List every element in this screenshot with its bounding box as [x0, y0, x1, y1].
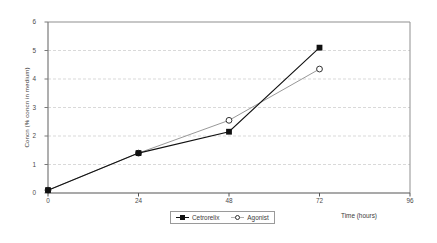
plot-area	[0, 0, 437, 243]
legend-item-cetrorelix[interactable]: Cetrorelix	[176, 214, 219, 222]
legend-item-agonist[interactable]: Agonist	[231, 214, 268, 222]
data-point-cetrorelix-72h	[317, 45, 323, 51]
data-point-cetrorelix-0h	[45, 187, 51, 193]
series-line-cetrorelix	[48, 48, 320, 191]
gridlines	[48, 51, 410, 165]
data-point-agonist-48h	[226, 117, 232, 123]
filled-square-icon	[176, 214, 189, 222]
legend-label-cetrorelix: Cetrorelix	[192, 214, 219, 221]
data-point-cetrorelix-48h	[226, 129, 232, 135]
series-layer	[45, 45, 322, 193]
open-circle-icon	[231, 214, 244, 222]
chart-legend: Cetrorelix Agonist	[170, 211, 275, 224]
data-point-agonist-72h	[317, 66, 323, 72]
line-chart: Concn (% concn in medium) Time (hours) 6…	[0, 0, 437, 243]
series-line-agonist	[48, 69, 320, 190]
legend-label-agonist: Agonist	[247, 214, 268, 221]
data-point-cetrorelix-24h	[136, 150, 142, 156]
